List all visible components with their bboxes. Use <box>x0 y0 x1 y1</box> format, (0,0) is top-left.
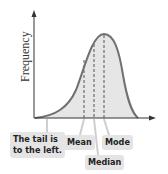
mode-label: Mode <box>102 135 133 150</box>
y-axis-label: Frequency <box>18 31 33 82</box>
tail-label-line2: to the left. <box>13 145 62 156</box>
y-axis-arrow-icon <box>32 10 37 17</box>
x-axis-arrow-icon <box>149 116 156 121</box>
tail-label: The tail is to the left. <box>10 132 65 158</box>
tail-label-line1: The tail is <box>13 134 62 145</box>
mean-leader <box>80 119 84 135</box>
median-label: Median <box>85 155 124 170</box>
mean-label: Mean <box>64 135 95 150</box>
mode-leader <box>104 119 109 135</box>
